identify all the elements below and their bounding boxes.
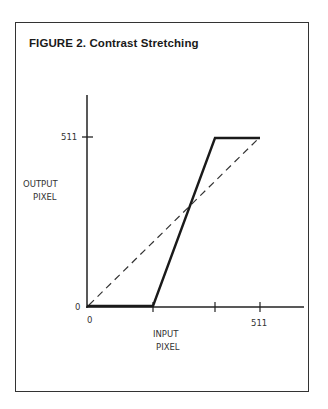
y-origin-label: 0 bbox=[75, 302, 80, 312]
x-origin-label: 0 bbox=[87, 315, 92, 325]
x-axis-label-line2: PIXEL bbox=[156, 342, 180, 352]
x-max-label: 511 bbox=[251, 318, 267, 328]
x-axis-label-line1: INPUT bbox=[153, 329, 179, 339]
identity-dashed-line bbox=[89, 137, 260, 305]
y-axis-label-line2: PIXEL bbox=[33, 192, 57, 202]
y-axis-label-line1: OUTPUT bbox=[23, 179, 58, 189]
stretch-transfer-line bbox=[87, 138, 260, 306]
contrast-stretch-chart: 511 0 0 511 OUTPUT PIXEL INPUT PIXEL bbox=[0, 0, 328, 409]
y-max-label: 511 bbox=[61, 132, 77, 142]
